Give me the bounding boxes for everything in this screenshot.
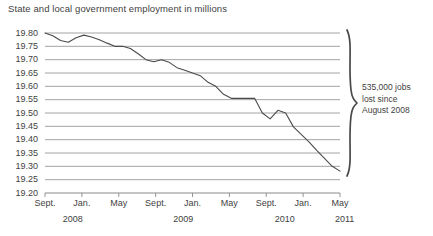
gridlines (45, 33, 340, 193)
x-axis-tick-label: Jan. (73, 198, 90, 208)
x-axis-labels: Sept.Jan.MaySept.Jan.MaySept.Jan.May (0, 198, 433, 214)
annotation-line-1: 535,000 jobs (362, 82, 432, 94)
x-axis-tick-label: May (110, 198, 127, 208)
x-axis-year-label: 2010 (275, 214, 295, 224)
x-axis-tick-label: Sept. (256, 198, 277, 208)
x-axis-tick-label: May (331, 198, 348, 208)
x-axis-tick-label: Sept. (145, 198, 166, 208)
annotation-line-3: August 2008 (362, 105, 432, 117)
x-axis-tick-label: Jan. (184, 198, 201, 208)
annotation-line-2: lost since (362, 94, 432, 106)
x-axis-year-labels: 2008200920102011 (0, 214, 433, 230)
x-axis-year-label: 2009 (173, 214, 193, 224)
x-axis-tick-label: Jan. (295, 198, 312, 208)
x-axis-year-label: 2008 (63, 214, 83, 224)
data-series-line (45, 33, 340, 171)
x-axis-ticks (45, 193, 340, 197)
x-axis-year-label: 2011 (335, 214, 354, 224)
annotation-text: 535,000 jobs lost since August 2008 (362, 82, 432, 117)
x-axis-tick-label: Sept. (34, 198, 55, 208)
chart-title: State and local government employment in… (8, 3, 227, 14)
chart-figure: State and local government employment in… (0, 0, 433, 236)
x-axis-tick-label: May (221, 198, 238, 208)
curly-brace-icon (344, 28, 360, 178)
